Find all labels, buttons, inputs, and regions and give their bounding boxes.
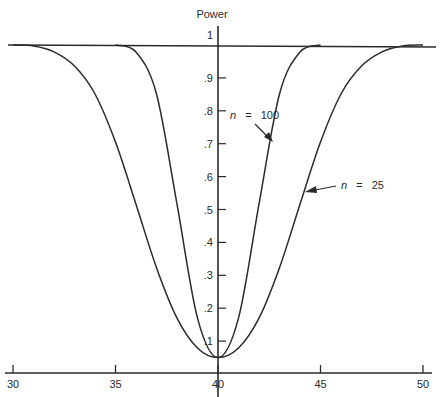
x-tick-label: 40	[212, 378, 224, 390]
reference-line-power-1	[8, 45, 436, 47]
y-tick-label: .4	[204, 236, 213, 248]
x-tick-label: 35	[109, 378, 121, 390]
y-tick-label: .2	[204, 302, 213, 314]
annotation-n100-eq: =	[245, 109, 251, 121]
y-ticks: .1.2.3.4.5.6.7.8.91	[204, 29, 226, 347]
annotation-n100-var: n	[230, 109, 236, 121]
x-tick-label: 30	[7, 378, 19, 390]
svg-text:n = 25: n = 25	[341, 179, 384, 191]
annotation-n100-val: 100	[261, 109, 279, 121]
svg-text:n = 100: n = 100	[230, 109, 279, 121]
y-tick-label: .6	[204, 171, 213, 183]
y-tick-label: 1	[207, 29, 213, 41]
power-curve-chart: 3035404550 .1.2.3.4.5.6.7.8.91 Power n =…	[0, 0, 444, 397]
x-tick-label: 50	[417, 378, 429, 390]
y-tick-label: .5	[204, 204, 213, 216]
y-tick-label: .3	[204, 269, 213, 281]
arrow-n25-shaft	[315, 186, 336, 190]
y-tick-label: .9	[204, 72, 213, 84]
x-tick-label: 45	[314, 378, 326, 390]
arrow-n25-head	[305, 186, 317, 193]
x-ticks: 3035404550	[7, 365, 429, 390]
y-tick-label: .8	[204, 105, 213, 117]
y-tick-label: .7	[204, 138, 213, 150]
annotation-n25-var: n	[341, 179, 347, 191]
annotation-n25: n = 25	[305, 179, 384, 193]
annotation-n25-eq: =	[356, 179, 362, 191]
annotation-n25-val: 25	[372, 179, 384, 191]
annotation-n100: n = 100	[230, 109, 279, 142]
y-axis-title: Power	[196, 8, 228, 20]
